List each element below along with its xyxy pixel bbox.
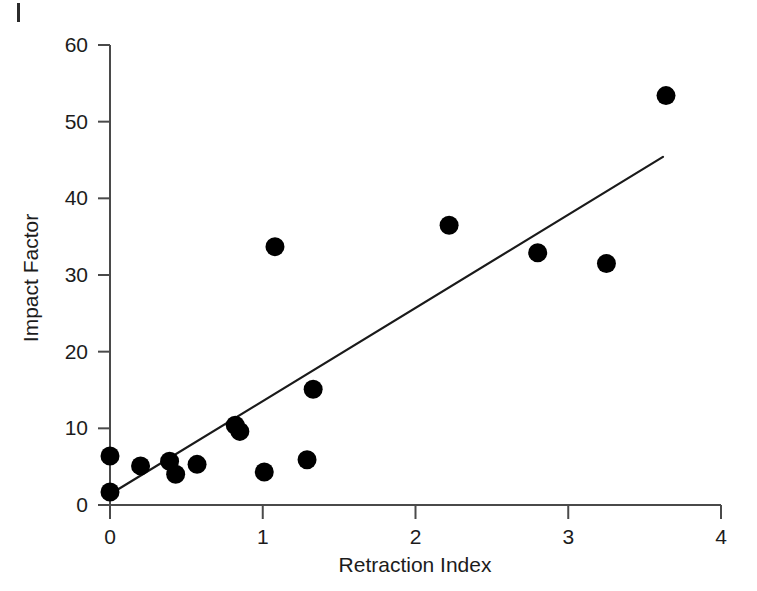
data-point-marker: [230, 422, 249, 441]
plot-canvas: 0102030405060 01234 Retraction Index Imp…: [0, 0, 757, 591]
x-tick-label: 1: [257, 525, 269, 548]
data-markers-layer: [101, 86, 676, 501]
y-tick-label: 60: [65, 33, 88, 56]
data-point-marker: [528, 243, 547, 262]
y-tick-label: 0: [76, 493, 88, 516]
y-tick-label: 40: [65, 186, 88, 209]
data-point-marker: [188, 455, 207, 474]
regression-line: [110, 157, 663, 494]
y-tick-label: 10: [65, 416, 88, 439]
x-tick-label: 4: [715, 525, 727, 548]
data-point-marker: [255, 463, 274, 482]
y-tick-label: 30: [65, 263, 88, 286]
axes-group: [110, 45, 721, 505]
x-tick-label: 0: [104, 525, 116, 548]
data-point-marker: [304, 380, 323, 399]
regression-line-layer: [110, 157, 663, 494]
data-point-marker: [166, 465, 185, 484]
data-point-marker: [131, 456, 150, 475]
x-tick-label: 2: [410, 525, 422, 548]
y-tick-label: 20: [65, 340, 88, 363]
data-point-marker: [440, 216, 459, 235]
data-point-marker: [298, 450, 317, 469]
y-axis-ticks: 0102030405060: [65, 33, 110, 516]
data-point-marker: [101, 446, 120, 465]
data-point-marker: [657, 86, 676, 105]
scatter-plot-figure: 0102030405060 01234 Retraction Index Imp…: [0, 0, 757, 591]
x-tick-label: 3: [562, 525, 574, 548]
y-tick-label: 50: [65, 110, 88, 133]
y-axis-title: Impact Factor: [19, 214, 42, 342]
x-axis-title: Retraction Index: [339, 553, 492, 576]
data-point-marker: [597, 254, 616, 273]
x-axis-ticks: 01234: [104, 505, 727, 548]
data-point-marker: [265, 237, 284, 256]
data-point-marker: [101, 482, 120, 501]
